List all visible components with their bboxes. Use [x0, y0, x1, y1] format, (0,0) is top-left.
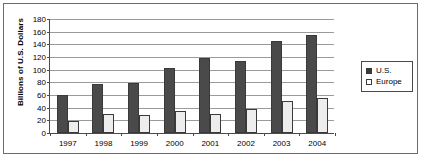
bar-group	[50, 19, 86, 133]
y-axis-tick-label: 40	[37, 103, 46, 112]
legend-label: Europe	[376, 77, 402, 86]
x-axis-tick-mark	[335, 133, 336, 136]
y-axis-tick-label: 120	[33, 52, 46, 61]
x-axis-tick-label: 2002	[237, 139, 255, 148]
filled-square-icon	[366, 68, 372, 74]
x-axis-tick-label: 2001	[201, 139, 219, 148]
bar-europe-2003	[282, 101, 293, 133]
x-axis-tick-label: 2000	[166, 139, 184, 148]
bar-europe-1998	[103, 114, 114, 133]
chart-legend: U.S.Europe	[361, 61, 413, 92]
bar-europe-2001	[210, 114, 221, 133]
x-axis-tick-mark	[299, 133, 300, 136]
bar-europe-2004	[317, 98, 328, 133]
x-axis-tick-mark	[157, 133, 158, 136]
bar-group	[228, 19, 264, 133]
x-axis-tick-mark	[50, 133, 51, 136]
x-axis-tick-label: 1998	[95, 139, 113, 148]
bar-group	[264, 19, 300, 133]
y-axis-title: Billions of U.S. Dollars	[16, 12, 28, 112]
x-axis-tick-label: 1997	[59, 139, 77, 148]
bar-us-2001	[199, 58, 210, 133]
y-axis-tick-label: 180	[33, 15, 46, 24]
x-axis-tick-mark	[264, 133, 265, 136]
legend-label: U.S.	[376, 66, 392, 75]
bar-us-2002	[235, 61, 246, 133]
x-axis-tick-mark	[121, 133, 122, 136]
bar-europe-1999	[139, 115, 150, 133]
plot-area: 020406080100120140160180 199719981999200…	[49, 19, 334, 134]
empty-square-icon	[366, 79, 372, 85]
bar-group	[157, 19, 193, 133]
y-axis-tick-label: 0	[42, 129, 46, 138]
y-axis-tick-label: 20	[37, 116, 46, 125]
y-axis-tick-label: 160	[33, 27, 46, 36]
bar-us-2003	[271, 41, 282, 133]
bar-us-1999	[128, 83, 139, 133]
bar-europe-2002	[246, 109, 257, 133]
bar-us-2000	[164, 68, 175, 133]
x-axis-tick-label: 1999	[130, 139, 148, 148]
y-axis-tick-label: 60	[37, 90, 46, 99]
y-axis-tick-label: 100	[33, 65, 46, 74]
bar-us-1997	[57, 95, 68, 133]
x-axis-tick-mark	[86, 133, 87, 136]
bar-europe-2000	[175, 111, 186, 133]
x-axis-tick-mark	[193, 133, 194, 136]
x-axis-tick-label: 2004	[308, 139, 326, 148]
y-axis-tick-label: 140	[33, 40, 46, 49]
bar-us-1998	[92, 84, 103, 133]
x-axis-tick-mark	[228, 133, 229, 136]
bar-group	[193, 19, 229, 133]
y-axis-tick-label: 80	[37, 78, 46, 87]
bar-group	[299, 19, 335, 133]
bars-layer	[50, 19, 334, 133]
chart-frame: Billions of U.S. Dollars 020406080100120…	[3, 3, 418, 154]
legend-item-us[interactable]: U.S.	[366, 65, 408, 76]
x-axis-tick-label: 2003	[273, 139, 291, 148]
legend-item-europe[interactable]: Europe	[366, 76, 408, 87]
bar-europe-1997	[68, 121, 79, 133]
bar-group	[121, 19, 157, 133]
bar-group	[86, 19, 122, 133]
bar-us-2004	[306, 35, 317, 133]
